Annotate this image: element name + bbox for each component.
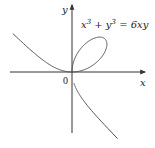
curve-loop	[72, 37, 107, 72]
x-axis-label: x	[140, 77, 146, 88]
y-axis-label: y	[61, 4, 68, 15]
curve-lower-branch	[74, 83, 118, 139]
curve-upper-left-branch	[13, 34, 72, 72]
origin-label: 0	[63, 75, 68, 86]
equation-label: x3 + y3 = 6xy	[81, 18, 149, 30]
folium-diagram: y x 0 x3 + y3 = 6xy	[0, 0, 155, 148]
